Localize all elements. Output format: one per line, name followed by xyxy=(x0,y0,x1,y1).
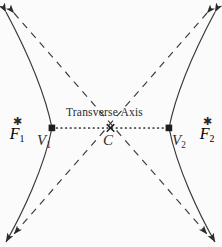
focus-right-text: F2 xyxy=(194,126,220,147)
center-label: C xyxy=(103,133,113,148)
vertex-right-letter: V xyxy=(172,132,181,148)
focus-left-text: F1 xyxy=(4,126,30,147)
focus-right-letter: F xyxy=(200,125,210,142)
focus-left-subscript: 1 xyxy=(19,133,24,144)
vertex-left-letter: V xyxy=(37,132,46,148)
diagram-canvas xyxy=(0,0,222,247)
focus-label-left: ✱ F1 xyxy=(4,119,30,147)
transverse-axis-label: Transverse Axis xyxy=(66,107,143,119)
vertex-label-right: V2 xyxy=(172,133,186,150)
asymptote-group xyxy=(14,13,207,234)
vertex-point-left xyxy=(49,125,56,132)
focus-right-subscript: 2 xyxy=(209,133,214,144)
vertex-label-left: V1 xyxy=(37,133,51,150)
vertex-point-right xyxy=(166,125,173,132)
focus-left-letter: F xyxy=(10,125,20,142)
vertex-left-subscript: 1 xyxy=(46,140,51,150)
vertex-right-subscript: 2 xyxy=(181,140,186,150)
focus-label-right: ✱ F2 xyxy=(194,119,220,147)
hyperbola-diagram: Transverse Axis V1 V2 C ✱ F1 ✱ F2 xyxy=(0,0,222,247)
